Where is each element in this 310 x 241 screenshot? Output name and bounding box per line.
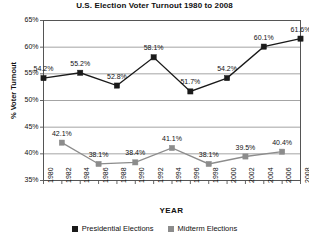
data-label: 38.1% xyxy=(194,151,224,158)
chart-container: U.S. Election Voter Turnout 1980 to 2008… xyxy=(0,0,309,241)
legend-swatch-icon xyxy=(168,226,174,232)
legend-item[interactable]: Midterm Elections xyxy=(168,224,238,233)
data-label: 38.4% xyxy=(120,149,150,156)
legend-label: Midterm Elections xyxy=(178,224,238,233)
data-label: 58.1% xyxy=(139,44,169,51)
data-label: 55.2% xyxy=(65,60,95,67)
legend-item[interactable]: Presidential Elections xyxy=(72,224,154,233)
data-label: 54.2% xyxy=(212,65,242,72)
data-label: 51.7% xyxy=(175,78,205,85)
x-axis-title: YEAR xyxy=(43,206,300,215)
data-label: 38.1% xyxy=(84,151,114,158)
data-label: 52.8% xyxy=(102,73,132,80)
chart-legend: Presidential ElectionsMidterm Elections xyxy=(0,224,309,233)
data-label: 61.6% xyxy=(286,26,310,33)
legend-label: Presidential Elections xyxy=(82,224,154,233)
data-label: 40.4% xyxy=(267,139,297,146)
data-label: 41.1% xyxy=(157,135,187,142)
data-label: 54.2% xyxy=(29,65,59,72)
data-label: 60.1% xyxy=(249,34,279,41)
data-label: 42.1% xyxy=(47,130,77,137)
legend-swatch-icon xyxy=(72,226,78,232)
data-label: 39.5% xyxy=(230,144,260,151)
data-point-labels: 54.2%55.2%52.8%58.1%51.7%54.2%60.1%61.6%… xyxy=(0,0,309,241)
